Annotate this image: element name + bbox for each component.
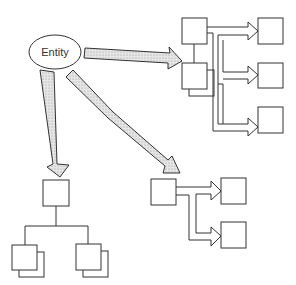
child-box-2 bbox=[221, 222, 246, 248]
branch-arrow-upper bbox=[176, 181, 221, 246]
stacked-box-right-front bbox=[76, 244, 101, 270]
child-box-3 bbox=[258, 107, 283, 133]
parent-box bbox=[151, 179, 176, 205]
parent-box bbox=[182, 18, 207, 44]
stacked-box-front bbox=[182, 63, 207, 89]
middle-group bbox=[151, 178, 246, 248]
top-right-group bbox=[182, 18, 283, 136]
child-box-2 bbox=[258, 63, 283, 88]
fat-arrow-down bbox=[40, 70, 69, 177]
parent-box bbox=[43, 180, 69, 206]
entity-label: Entity bbox=[41, 46, 69, 58]
branch-arrow-lower-split bbox=[218, 84, 223, 124]
fat-arrow-right bbox=[84, 47, 182, 69]
child-box-1 bbox=[221, 178, 246, 204]
fat-arrow-diagonal bbox=[66, 70, 180, 173]
child-box-1 bbox=[258, 18, 283, 44]
entity-node: Entity bbox=[29, 35, 81, 69]
stacked-box-left-front bbox=[12, 245, 37, 270]
entity-diagram: Entity bbox=[0, 0, 296, 285]
bottom-left-group bbox=[12, 180, 108, 277]
branch-arrow-middle bbox=[223, 40, 258, 84]
